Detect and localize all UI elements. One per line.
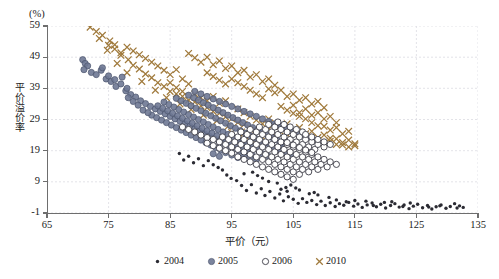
x-axis-line bbox=[47, 213, 479, 214]
y-axis-line bbox=[47, 25, 48, 214]
chart-legend: 2004200520062010 bbox=[0, 256, 499, 266]
legend-marker-cross-x-icon bbox=[315, 257, 324, 266]
y-tick-label: 19 bbox=[18, 145, 40, 156]
legend-label: 2005 bbox=[218, 256, 238, 266]
y-tick-mark bbox=[43, 57, 47, 58]
x-tick-label: 95 bbox=[226, 220, 237, 231]
y-tick-label: 29 bbox=[18, 114, 40, 125]
legend-label: 2004 bbox=[164, 256, 184, 266]
y-tick-label: 59 bbox=[18, 20, 40, 31]
legend-marker-filled-circle-icon bbox=[207, 257, 216, 266]
x-tick-mark bbox=[231, 214, 232, 218]
y-tick-mark bbox=[43, 181, 47, 182]
x-tick-label: 75 bbox=[103, 220, 114, 231]
x-tick-label: 85 bbox=[165, 220, 176, 231]
x-tick-label: 115 bbox=[347, 220, 362, 231]
x-tick-mark bbox=[354, 214, 355, 218]
y-axis-unit-label: (%) bbox=[29, 8, 45, 19]
x-tick-mark bbox=[108, 214, 109, 218]
legend-label: 2006 bbox=[272, 256, 292, 266]
legend-marker-open-circle-icon bbox=[261, 257, 270, 266]
x-tick-mark bbox=[477, 214, 478, 218]
y-tick-mark bbox=[43, 88, 47, 89]
x-tick-label: 135 bbox=[470, 220, 486, 231]
x-tick-mark bbox=[170, 214, 171, 218]
x-tick-mark bbox=[46, 214, 47, 218]
legend-item-2004[interactable]: 2004 bbox=[153, 256, 184, 266]
plot-area bbox=[47, 26, 478, 213]
x-tick-mark bbox=[293, 214, 294, 218]
x-tick-label: 105 bbox=[285, 220, 301, 231]
y-tick-label: 39 bbox=[18, 82, 40, 93]
y-tick-mark bbox=[43, 119, 47, 120]
x-tick-mark bbox=[416, 214, 417, 218]
y-tick-label: 9 bbox=[18, 176, 40, 187]
legend-item-2006[interactable]: 2006 bbox=[261, 256, 292, 266]
scatter-chart: (%) 平价溢价率 -191929394959 6575859510511512… bbox=[0, 0, 499, 279]
legend-item-2005[interactable]: 2005 bbox=[207, 256, 238, 266]
data-points-layer bbox=[47, 26, 478, 213]
y-tick-label: -1 bbox=[18, 207, 40, 218]
x-axis-title: 平价（元） bbox=[0, 233, 499, 248]
legend-label: 2010 bbox=[326, 256, 346, 266]
legend-marker-small-filled-dot-icon bbox=[153, 257, 162, 266]
x-tick-label: 125 bbox=[409, 220, 425, 231]
legend-item-2010[interactable]: 2010 bbox=[315, 256, 346, 266]
y-tick-label: 49 bbox=[18, 51, 40, 62]
x-tick-label: 65 bbox=[42, 220, 53, 231]
y-tick-mark bbox=[43, 150, 47, 151]
y-tick-mark bbox=[43, 25, 47, 26]
